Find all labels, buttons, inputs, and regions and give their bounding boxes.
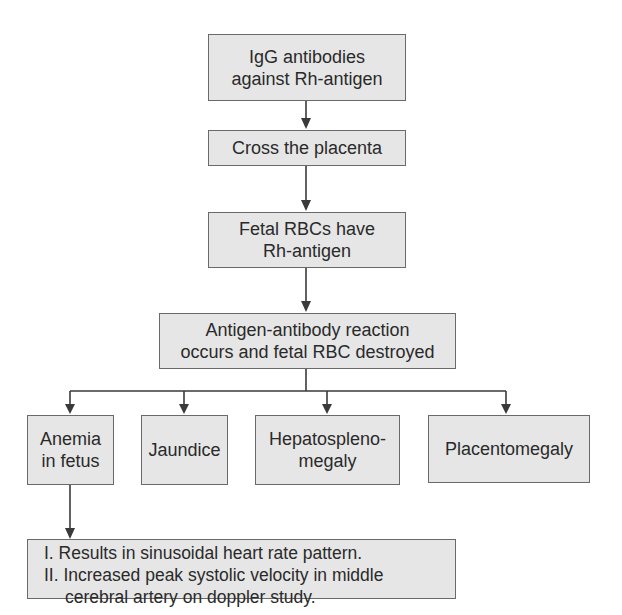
node-label: IgG antibodies against Rh-antigen xyxy=(231,46,382,90)
effect-item: I. Results in sinusoidal heart rate patt… xyxy=(44,542,383,564)
node-label: Cross the placenta xyxy=(232,137,382,159)
node-anemia: Anemia in fetus xyxy=(27,415,114,485)
effect-item: cerebral artery on doppler study. xyxy=(44,586,383,608)
node-label: Antigen-antibody reaction occurs and fet… xyxy=(180,319,434,363)
node-cross-placenta: Cross the placenta xyxy=(208,130,406,166)
node-anemia-effects: I. Results in sinusoidal heart rate patt… xyxy=(27,539,456,599)
node-fetal-rbcs: Fetal RBCs have Rh-antigen xyxy=(208,212,406,268)
node-hepatosplenomegaly: Hepatospleno- megaly xyxy=(255,415,400,485)
node-igg-antibodies: IgG antibodies against Rh-antigen xyxy=(208,34,406,101)
node-antigen-antibody-reaction: Antigen-antibody reaction occurs and fet… xyxy=(159,313,456,369)
node-jaundice: Jaundice xyxy=(141,415,228,485)
node-label: Hepatospleno- megaly xyxy=(269,428,386,472)
node-placentomegaly: Placentomegaly xyxy=(428,415,590,483)
node-label: Jaundice xyxy=(148,439,220,461)
node-label: Anemia in fetus xyxy=(40,428,101,472)
node-label: Fetal RBCs have Rh-antigen xyxy=(239,218,375,262)
node-label: Placentomegaly xyxy=(445,438,573,460)
effect-item: II. Increased peak systolic velocity in … xyxy=(44,564,383,586)
